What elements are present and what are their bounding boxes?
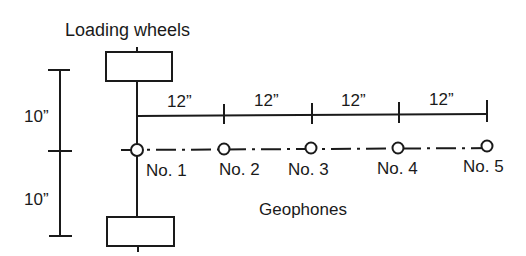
horizontal-dim-label-3: 12” (341, 91, 366, 110)
geophone-marker-1 (131, 144, 143, 156)
geophone-label-4: No. 4 (377, 159, 418, 178)
geophone-layout-diagram: Loading wheels 10” 10” 12” 12” 12” 12” N… (0, 0, 526, 256)
horizontal-dim-label-1: 12” (167, 92, 192, 111)
horizontal-dim-label-4: 12” (429, 90, 454, 109)
geophone-marker-3 (306, 143, 317, 154)
geophone-marker-5 (482, 141, 493, 152)
geophone-label-1: No. 1 (146, 161, 187, 180)
geophone-marker-2 (219, 144, 230, 155)
geophones-caption: Geophones (259, 200, 347, 219)
vertical-dimension (48, 70, 72, 236)
geophone-label-5: No. 5 (463, 157, 504, 176)
vertical-dim-label-top: 10” (24, 107, 49, 126)
horizontal-dim-label-2: 12” (254, 91, 279, 110)
loading-wheels-label: Loading wheels (65, 20, 190, 40)
geophone-marker-4 (393, 143, 404, 154)
vertical-dim-label-bottom: 10” (24, 190, 49, 209)
geophone-label-3: No. 3 (288, 160, 329, 179)
bottom-loading-wheel (107, 217, 174, 246)
top-loading-wheel (106, 52, 172, 81)
geophone-label-2: No. 2 (219, 160, 260, 179)
